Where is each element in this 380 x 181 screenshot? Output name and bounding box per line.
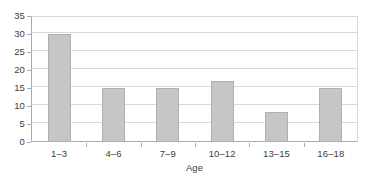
x-axis-tick-label: 16–18 [304, 148, 358, 160]
x-axis-tick [249, 143, 250, 147]
x-axis-tick-label: 7–9 [141, 148, 195, 160]
y-axis-tick-label: 10 [0, 101, 25, 111]
y-axis-tick-label: 15 [0, 83, 25, 93]
bar-series [32, 16, 358, 142]
y-axis-tick-label: 5 [0, 119, 25, 129]
y-axis-tick [27, 34, 31, 35]
bar [211, 81, 234, 142]
y-axis-tick-label: 30 [0, 29, 25, 39]
y-axis-tick [27, 124, 31, 125]
y-axis-tick [27, 70, 31, 71]
y-axis-tick [27, 106, 31, 107]
bar [102, 88, 125, 142]
x-axis-title: Age [31, 162, 358, 174]
y-axis-tick [27, 88, 31, 89]
y-axis-tick-label: 0 [0, 137, 25, 147]
x-axis-tick-label: 1–3 [32, 148, 86, 160]
bar [319, 88, 342, 142]
x-axis-tick [195, 143, 196, 147]
y-axis-tick [27, 16, 31, 17]
y-axis-tick-label: 20 [0, 65, 25, 75]
x-axis-tick [141, 143, 142, 147]
x-axis-tick-label: 4–6 [86, 148, 140, 160]
x-axis-tick [86, 143, 87, 147]
y-axis-tick [27, 52, 31, 53]
x-axis-tick [304, 143, 305, 147]
x-axis-labels: 1–34–67–910–1213–1516–18 [31, 148, 358, 162]
x-axis-tick-label: 13–15 [249, 148, 303, 160]
y-axis-tick-label: 35 [0, 11, 25, 21]
x-axis-tick-label: 10–12 [195, 148, 249, 160]
y-axis-labels: 05101520253035 [0, 0, 25, 181]
bar [48, 34, 71, 142]
bar [156, 88, 179, 142]
bar-chart: 05101520253035 1–34–67–910–1213–1516–18 … [0, 0, 380, 181]
y-axis-tick-label: 25 [0, 47, 25, 57]
bar [265, 112, 288, 142]
